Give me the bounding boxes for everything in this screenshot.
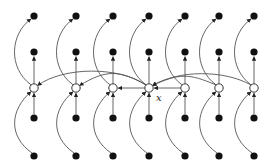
observed-node-upper [72,48,79,55]
edge-bottom-to-middle [94,92,111,153]
observed-node-upper [250,48,257,55]
observed-node-top [30,12,37,19]
edge-middle-to-top [234,19,251,85]
observed-node-top [215,12,222,19]
observed-node-top [181,12,188,19]
observed-node-lower [109,114,116,121]
observed-node-lower [145,114,152,121]
nodes [30,12,258,159]
observed-node-top [250,12,257,19]
observed-node-bottom [109,152,116,159]
edge-bottom-to-middle [57,92,74,153]
hidden-node [109,84,117,92]
observed-node-bottom [72,152,79,159]
hidden-node [250,84,258,92]
center-hidden-node [145,84,153,92]
graphical-model-diagram: x [0,0,278,168]
edge-middle-to-top [14,19,31,85]
observed-node-upper [181,48,188,55]
hidden-node [30,84,38,92]
edge-center-to-left [38,71,147,85]
hidden-node [181,84,189,92]
observed-node-bottom [181,152,188,159]
observed-node-bottom [250,152,257,159]
observed-node-top [109,12,116,19]
edge-bottom-to-middle [235,92,252,153]
edge-bottom-to-middle [200,92,217,153]
observed-node-top [72,12,79,19]
observed-node-upper [145,48,152,55]
edge-middle-to-top [129,19,146,85]
edge-middle-to-top [199,19,216,85]
observed-node-top [145,12,152,19]
observed-node-bottom [215,152,222,159]
observed-node-lower [250,114,257,121]
hidden-node [215,84,223,92]
observed-node-lower [30,114,37,121]
observed-node-lower [181,114,188,121]
observed-node-lower [215,114,222,121]
observed-node-bottom [30,152,37,159]
observed-node-bottom [145,152,152,159]
edge-bottom-to-middle [130,92,147,153]
center-node-label: x [156,92,162,103]
observed-node-upper [215,48,222,55]
observed-node-upper [30,48,37,55]
edge-middle-to-top [165,19,182,85]
observed-node-upper [109,48,116,55]
edge-bottom-to-middle [166,92,183,153]
hidden-node [72,84,80,92]
observed-node-lower [72,114,79,121]
edge-bottom-to-middle [15,92,32,153]
